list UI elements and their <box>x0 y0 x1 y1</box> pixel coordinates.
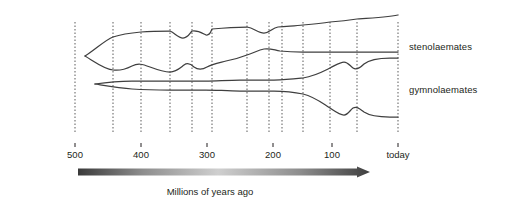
taxon-label-gymnolaemates: gymnolaemates <box>409 84 477 95</box>
diversity-chart-canvas <box>0 0 505 205</box>
axis-tick-label-200: 200 <box>265 149 281 160</box>
taxon-label-stenolaemates: stenolaemates <box>409 41 472 52</box>
time-direction-arrow <box>78 167 370 178</box>
axis-tick-label-today: today <box>386 149 409 160</box>
taxon-spindle-shapes <box>85 15 398 117</box>
axis-tick-marks <box>75 143 398 147</box>
axis-tick-label-500: 500 <box>67 149 83 160</box>
spindle-stenolaemates-upper-boundary <box>85 15 398 56</box>
period-boundary-lines <box>75 22 398 133</box>
time-gradient-arrow-shape <box>78 167 370 178</box>
axis-tick-label-400: 400 <box>133 149 149 160</box>
axis-caption: Millions of years ago <box>167 186 254 197</box>
spindle-stenolaemates-lower-boundary <box>85 49 398 72</box>
axis-tick-label-300: 300 <box>199 149 215 160</box>
bryozoan-diversity-spindle-diagram: stenolaemates gymnolaemates 500400300200… <box>0 0 505 205</box>
axis-tick-label-100: 100 <box>324 149 340 160</box>
